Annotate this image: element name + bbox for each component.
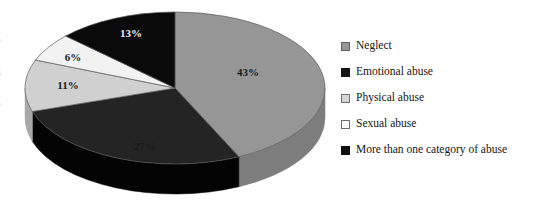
chart-legend: Neglect Emotional abuse Physical abuse S… [341,33,531,163]
legend-swatch-icon [341,42,350,51]
legend-swatch-icon [341,94,350,103]
legend-item-label: Physical abuse [356,92,424,104]
legend-item-label: More than one category of abuse [356,144,507,156]
legend-item-physical-abuse[interactable]: Physical abuse [341,85,531,111]
pie-top-slices [25,12,325,164]
legend-item-neglect[interactable]: Neglect [341,33,531,59]
legend-item-emotional-abuse[interactable]: Emotional abuse [341,59,531,85]
legend-item-sexual-abuse[interactable]: Sexual abuse [341,111,531,137]
legend-swatch-icon [341,68,350,77]
pie-svg [0,0,340,210]
legend-item-label: Neglect [356,40,392,52]
legend-swatch-icon [341,120,350,129]
pie-chart-figure: n g n 43%27%11%6%13% Neglect Emotional a… [0,0,537,210]
legend-item-more-than-one-category[interactable]: More than one category of abuse [341,137,531,163]
legend-swatch-icon [341,146,350,155]
legend-item-label: Emotional abuse [356,66,433,78]
pie-chart: 43%27%11%6%13% [0,0,340,210]
legend-item-label: Sexual abuse [356,118,416,130]
